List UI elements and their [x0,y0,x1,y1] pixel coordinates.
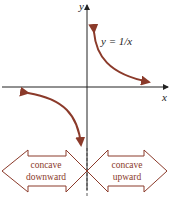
y-axis-label: y [78,0,84,12]
concave-upward-arrow [87,150,167,192]
graph-canvas: y x y = 1/x concave downward concave upw… [0,0,171,198]
concave-downward-arrow [2,150,87,192]
equation-label: y = 1/x [100,35,132,47]
curve-branch-negative [28,93,81,145]
x-axis-label: x [161,91,167,103]
left-region-label-1: concave [30,160,61,170]
right-region-label-1: concave [111,160,142,170]
left-region-label-2: downward [26,172,66,182]
right-region-label-2: upward [113,172,142,182]
concavity-diagram: y x y = 1/x concave downward concave upw… [0,0,171,198]
